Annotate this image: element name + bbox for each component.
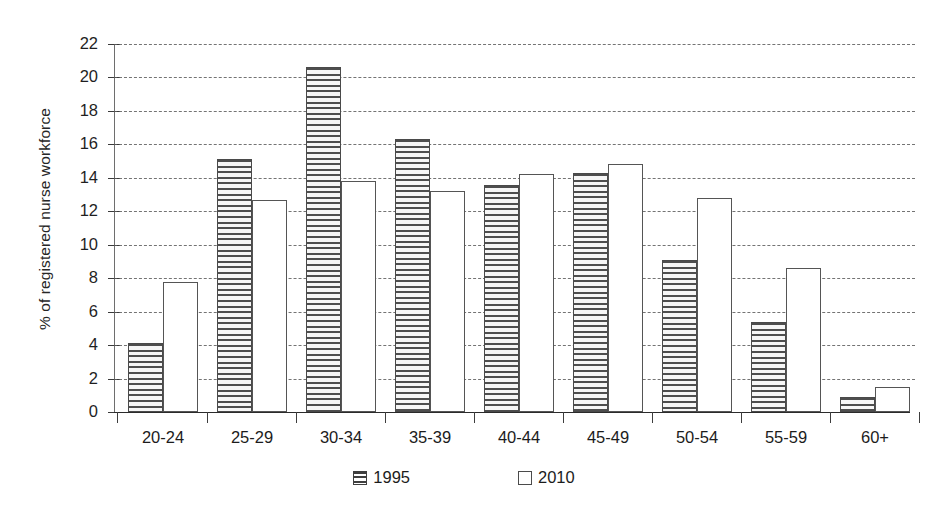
bar-2010-45-49	[608, 164, 643, 412]
x-tick-mark-50-54	[741, 412, 742, 423]
y-tick-label-10: 10	[58, 236, 98, 253]
plot-area	[114, 44, 915, 412]
y-tick-label-22: 22	[58, 35, 98, 52]
x-tick-mark-60+	[919, 412, 920, 423]
x-tick-mark-20-24	[207, 412, 208, 423]
y-tick-label-18: 18	[58, 102, 98, 119]
bar-2010-25-29	[252, 200, 287, 412]
y-tick-label-16: 16	[58, 135, 98, 152]
bar-1995-45-49	[573, 173, 608, 412]
x-category-label-60+: 60+	[815, 428, 928, 447]
bar-1995-25-29	[217, 159, 252, 412]
bar-1995-35-39	[395, 139, 430, 412]
bar-2010-20-24	[163, 282, 198, 412]
bar-1995-60+	[840, 397, 875, 412]
bar-1995-30-34	[306, 67, 341, 412]
legend-label-2010: 2010	[538, 468, 575, 487]
bar-2010-30-34	[341, 181, 376, 412]
legend-swatch-horizontal-stripes-icon	[353, 471, 367, 485]
y-tick-label-20: 20	[58, 68, 98, 85]
gridline-20	[114, 77, 915, 78]
y-axis-title: % of registered nurse workforce	[36, 54, 54, 384]
x-tick-mark-45-49	[652, 412, 653, 423]
gridline-22	[114, 44, 915, 45]
x-tick-mark-40-44	[563, 412, 564, 423]
y-tick-label-14: 14	[58, 169, 98, 186]
x-tick-mark-25-29	[296, 412, 297, 423]
gridline-18	[114, 111, 915, 112]
y-tick-label-6: 6	[58, 303, 98, 320]
x-tick-mark-30-34	[385, 412, 386, 423]
y-tick-label-12: 12	[58, 202, 98, 219]
chart-legend: 19952010	[0, 468, 928, 487]
bar-chart-figure: % of registered nurse workforce 22201816…	[0, 0, 928, 516]
bar-1995-50-54	[662, 260, 697, 412]
x-tick-mark-35-39	[474, 412, 475, 423]
bar-2010-50-54	[697, 198, 732, 412]
bar-1995-55-59	[751, 322, 786, 412]
bar-2010-55-59	[786, 268, 821, 412]
gridline-16	[114, 144, 915, 145]
bar-2010-35-39	[430, 191, 465, 412]
y-tick-label-2: 2	[58, 370, 98, 387]
x-axis-baseline	[114, 412, 910, 413]
bar-2010-40-44	[519, 174, 554, 412]
x-tick-mark-origin	[117, 412, 118, 423]
bar-1995-20-24	[128, 343, 163, 412]
legend-label-1995: 1995	[373, 468, 410, 487]
x-tick-mark-55-59	[830, 412, 831, 423]
bar-2010-60+	[875, 387, 910, 412]
y-tick-label-8: 8	[58, 269, 98, 286]
legend-swatch-empty-white-icon	[518, 471, 532, 485]
legend-entry-1995: 1995	[353, 468, 410, 487]
y-tick-label-0: 0	[58, 403, 98, 420]
legend-entry-2010: 2010	[518, 468, 575, 487]
bar-1995-40-44	[484, 185, 519, 412]
y-tick-label-4: 4	[58, 336, 98, 353]
